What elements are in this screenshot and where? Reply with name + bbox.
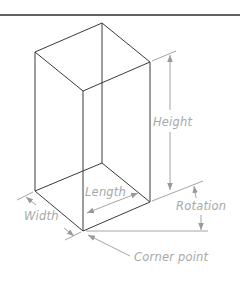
length-dimension: Length [85,185,138,213]
width-label: Width [24,209,59,223]
rotation-label: Rotation [176,199,226,213]
width-dimension: Width [17,192,81,240]
corner-point-leader: Corner point [88,235,209,264]
corner-point-label: Corner point [134,250,209,264]
box-dimension-diagram: Height Length Width Rotation Corner poin… [0,0,240,284]
length-label: Length [85,185,126,199]
height-dimension: Height [152,51,193,190]
box-wireframe [35,23,150,231]
height-label: Height [153,115,193,129]
